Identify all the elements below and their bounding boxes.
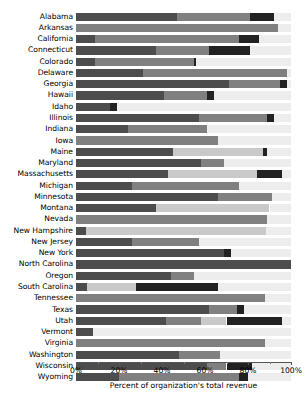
bar-segment bbox=[76, 249, 224, 257]
bar-segment bbox=[132, 182, 240, 190]
stacked-bar bbox=[76, 159, 291, 167]
stacked-bar bbox=[76, 283, 291, 291]
bar-segment bbox=[199, 114, 268, 122]
chart-row: Arkansas bbox=[0, 22, 306, 33]
category-label: Montana bbox=[0, 204, 76, 212]
bar-segment bbox=[239, 182, 291, 190]
bar-segment bbox=[76, 159, 201, 167]
bar-segment bbox=[270, 204, 292, 212]
bar-segment bbox=[143, 69, 287, 77]
bar-segment bbox=[128, 125, 208, 133]
stacked-bar bbox=[76, 305, 291, 313]
bar-segment bbox=[250, 46, 291, 54]
bar-segment bbox=[265, 339, 291, 347]
chart-row: Massachusetts bbox=[0, 169, 306, 180]
bar-segment bbox=[194, 272, 291, 280]
stacked-bar bbox=[76, 58, 291, 66]
bar-segment bbox=[76, 148, 173, 156]
bar-segment bbox=[156, 204, 270, 212]
chart-row: Utah bbox=[0, 315, 306, 326]
bar-segment bbox=[229, 80, 281, 88]
chart-row: Minnesota bbox=[0, 191, 306, 202]
category-label: Hawaii bbox=[0, 91, 76, 99]
bar-segment bbox=[76, 215, 267, 223]
category-label: Tennessee bbox=[0, 294, 76, 302]
bar-segment bbox=[76, 58, 95, 66]
chart-row: Georgia bbox=[0, 79, 306, 90]
chart-row: South Carolina bbox=[0, 281, 306, 292]
chart-row: Virginia bbox=[0, 338, 306, 349]
bar-segment bbox=[231, 249, 291, 257]
category-label: Alabama bbox=[0, 13, 76, 21]
bar-segment bbox=[76, 24, 278, 32]
category-label: Connecticut bbox=[0, 46, 76, 54]
bar-segment bbox=[76, 328, 93, 336]
chart-row: Idaho bbox=[0, 101, 306, 112]
stacked-bar bbox=[76, 80, 291, 88]
bar-segment bbox=[218, 136, 291, 144]
category-label: Georgia bbox=[0, 80, 76, 88]
category-label: Maryland bbox=[0, 159, 76, 167]
x-axis-title: Percent of organization's total revenue bbox=[76, 381, 291, 390]
chart-row: Iowa bbox=[0, 135, 306, 146]
stacked-bar bbox=[76, 238, 291, 246]
bar-segment bbox=[136, 283, 218, 291]
x-minor-tick bbox=[270, 362, 271, 364]
category-label: Idaho bbox=[0, 103, 76, 111]
chart-row: Illinois bbox=[0, 112, 306, 123]
bar-segment bbox=[250, 13, 274, 21]
bar-segment bbox=[171, 272, 195, 280]
stacked-bar bbox=[76, 328, 291, 336]
chart-row: Maine bbox=[0, 146, 306, 157]
bar-segment bbox=[282, 170, 291, 178]
x-tick bbox=[162, 362, 163, 365]
bar-segment bbox=[164, 91, 207, 99]
stacked-bar bbox=[76, 193, 291, 201]
category-label: Texas bbox=[0, 306, 76, 314]
category-label: Indiana bbox=[0, 125, 76, 133]
category-label: Colorado bbox=[0, 58, 76, 66]
bar-segment bbox=[76, 182, 132, 190]
x-minor-tick bbox=[141, 362, 142, 364]
bar-segment bbox=[76, 35, 95, 43]
bar-segment bbox=[132, 238, 199, 246]
x-tick-label: 60% bbox=[197, 366, 214, 375]
bar-segment bbox=[76, 294, 265, 302]
category-label: Delaware bbox=[0, 69, 76, 77]
bar-segment bbox=[119, 373, 239, 381]
chart-row: New Jersey bbox=[0, 236, 306, 247]
bar-segment bbox=[272, 193, 291, 201]
bar-segment bbox=[76, 238, 132, 246]
stacked-bar bbox=[76, 69, 291, 77]
bar-segment bbox=[196, 58, 291, 66]
stacked-bar bbox=[76, 339, 291, 347]
x-tick bbox=[291, 362, 292, 365]
category-label: Illinois bbox=[0, 114, 76, 122]
bar-segment bbox=[166, 317, 200, 325]
category-label: Iowa bbox=[0, 137, 76, 145]
chart-row: North Carolina bbox=[0, 259, 306, 270]
stacked-bar bbox=[76, 13, 291, 21]
bar-segment bbox=[76, 283, 87, 291]
chart-row: Colorado bbox=[0, 56, 306, 67]
bar-segment bbox=[87, 283, 136, 291]
category-label: Massachusetts bbox=[0, 170, 76, 178]
chart-row: Indiana bbox=[0, 124, 306, 135]
chart-row: Alabama bbox=[0, 11, 306, 22]
bar-segment bbox=[93, 328, 291, 336]
bar-segment bbox=[201, 159, 225, 167]
bar-segment bbox=[265, 294, 291, 302]
category-label: South Carolina bbox=[0, 283, 76, 291]
stacked-bar bbox=[76, 351, 291, 359]
bar-segment bbox=[76, 362, 207, 370]
stacked-bar bbox=[76, 103, 291, 111]
stacked-bar-chart: AlabamaArkansasCaliforniaConnecticutColo… bbox=[0, 0, 306, 396]
bar-segment bbox=[156, 46, 210, 54]
stacked-bar bbox=[76, 249, 291, 257]
chart-rows: AlabamaArkansasCaliforniaConnecticutColo… bbox=[0, 11, 306, 383]
x-tick-label: 80% bbox=[240, 366, 257, 375]
bar-segment bbox=[95, 35, 239, 43]
category-label: New York bbox=[0, 249, 76, 257]
bar-segment bbox=[259, 35, 291, 43]
category-label: New Hampshire bbox=[0, 227, 76, 235]
